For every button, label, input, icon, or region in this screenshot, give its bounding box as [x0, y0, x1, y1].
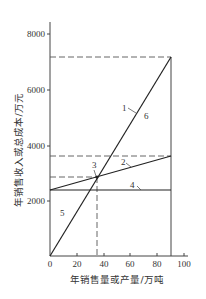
label-6: 6 [144, 111, 149, 121]
y-axis-title: 年销售收入或总成本/万元 [13, 93, 24, 206]
x-ticks: 0 20 40 60 80 100 [48, 253, 192, 269]
label-3: 3 [92, 160, 97, 170]
label-2: 2 [121, 157, 126, 167]
revenue-line-1 [50, 57, 171, 256]
label-5: 5 [60, 208, 65, 218]
label-2-leader [126, 163, 131, 167]
y-tick-6000: 6000 [27, 85, 46, 95]
x-tick-60: 60 [126, 259, 136, 269]
y-ticks: 2000 4000 6000 8000 [27, 29, 50, 206]
break-even-chart: 2000 4000 6000 8000 0 20 40 60 80 100 [0, 0, 206, 299]
x-axis-title: 年销售量或产量/万吨 [70, 274, 163, 285]
y-tick-8000: 8000 [27, 29, 46, 39]
label-4: 4 [130, 180, 135, 190]
x-tick-0: 0 [48, 259, 53, 269]
total-cost-line-2 [50, 156, 171, 190]
x-tick-40: 40 [100, 259, 110, 269]
y-tick-4000: 4000 [27, 141, 46, 151]
x-tick-100: 100 [177, 259, 191, 269]
label-3-leader [94, 170, 96, 176]
x-tick-20: 20 [73, 259, 83, 269]
x-tick-80: 80 [153, 259, 163, 269]
label-1: 1 [122, 103, 127, 113]
y-tick-2000: 2000 [27, 196, 46, 206]
label-1-leader [128, 108, 136, 113]
